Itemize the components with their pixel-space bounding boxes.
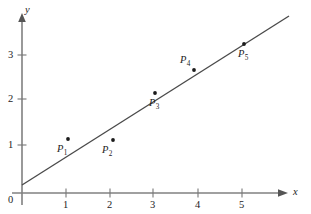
- point-label-p4-subscript: 4: [187, 60, 191, 68]
- point-label-p1: P1: [57, 144, 67, 155]
- x-tick-label-3: 3: [150, 200, 155, 211]
- point-label-p4: P4: [180, 55, 190, 66]
- x-axis-label: x: [293, 187, 298, 198]
- point-label-p1-text: P: [57, 143, 63, 154]
- y-tick-label-3: 3: [8, 50, 13, 61]
- scatter-plot-figure: y x 0 1 2 3 4 5 1 2 3 P1 P2 P3 P4 P5: [0, 0, 311, 214]
- y-axis-label: y: [25, 5, 30, 16]
- data-point-p1: [66, 137, 70, 141]
- x-tick-label-2: 2: [107, 200, 112, 211]
- point-label-p3-subscript: 3: [156, 103, 160, 111]
- data-point-p5: [242, 42, 246, 46]
- x-tick-label-4: 4: [195, 200, 200, 211]
- data-point-p3: [153, 91, 157, 95]
- point-label-p1-subscript: 1: [64, 149, 68, 157]
- point-label-p3: P3: [149, 98, 159, 109]
- point-label-p5-subscript: 5: [245, 54, 249, 62]
- point-label-p2: P2: [102, 145, 112, 156]
- point-label-p3-text: P: [149, 97, 155, 108]
- origin-label: 0: [8, 195, 13, 206]
- data-point-p4: [192, 68, 196, 72]
- x-axis-arrowhead: [278, 189, 288, 197]
- point-label-p5-text: P: [238, 48, 244, 59]
- y-tick-label-2: 2: [8, 94, 13, 105]
- point-label-p5: P5: [238, 49, 248, 60]
- x-tick-label-5: 5: [239, 200, 244, 211]
- point-label-p4-text: P: [180, 54, 186, 65]
- point-label-p2-text: P: [102, 144, 108, 155]
- x-tick-label-1: 1: [63, 200, 68, 211]
- data-point-p2: [111, 138, 115, 142]
- point-label-p2-subscript: 2: [109, 150, 113, 158]
- y-tick-label-1: 1: [8, 140, 13, 151]
